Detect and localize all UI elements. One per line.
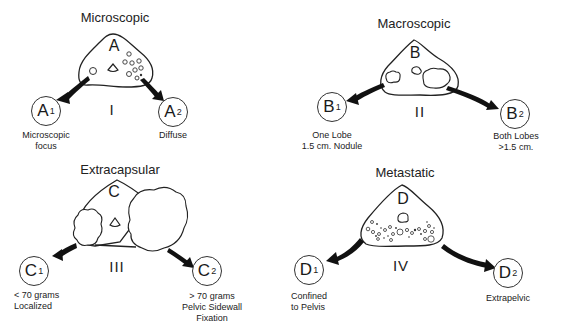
stage-c-title: Extracapsular — [80, 162, 159, 177]
arrow-d-to-d1 — [334, 238, 364, 262]
stage-b-title: Macroscopic — [378, 16, 451, 31]
label-b2: Both Lobes>1.5 cm. — [485, 131, 547, 153]
label-d2: Extrapelvic — [480, 293, 536, 304]
node-d1: D1 — [294, 255, 324, 285]
label-d1: Confinedto Pelvis — [291, 291, 341, 313]
stage-a-roman: I — [109, 101, 114, 118]
node-d2: D2 — [493, 258, 523, 288]
arrow-b-to-b2 — [446, 86, 490, 108]
stage-a-title: Microscopic — [81, 10, 150, 25]
label-a2: Diffuse — [148, 130, 198, 141]
stage-c-roman: III — [109, 258, 125, 275]
prostate-shape-c — [73, 180, 187, 251]
label-a1: Microscopicfocus — [6, 130, 86, 152]
arrow-c-to-c2 — [167, 248, 188, 265]
stage-a-letter: A — [109, 37, 120, 55]
node-a2: A2 — [158, 97, 188, 127]
node-a1: A1 — [31, 96, 61, 126]
stage-b-roman: II — [415, 103, 425, 120]
node-c2: C2 — [192, 256, 222, 286]
stage-b-letter: B — [410, 44, 421, 62]
arrow-d-to-d2 — [441, 244, 488, 268]
node-b2: B2 — [500, 99, 530, 129]
node-c1: C1 — [19, 256, 49, 286]
label-c1: < 70 gramsLocalized — [14, 290, 74, 312]
node-b1: B1 — [317, 92, 347, 122]
stage-c-letter: C — [108, 183, 120, 201]
stage-d-roman: IV — [393, 257, 409, 274]
label-c2: > 70 gramsPelvic SidewallFixation — [177, 291, 247, 324]
label-b1: One Lobe1.5 cm. Nodule — [292, 130, 372, 152]
stage-d-letter: D — [397, 190, 409, 208]
stage-d-title: Metastatic — [375, 165, 434, 180]
